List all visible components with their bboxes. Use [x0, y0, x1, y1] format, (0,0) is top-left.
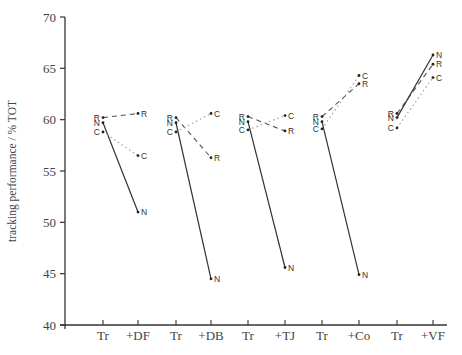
tracking-performance-chart: 40455055606570 Tr+DFTr+DBTr+TJTr+CoTr+VF… [0, 0, 462, 355]
series-line-c [176, 114, 211, 132]
point-label: C [94, 127, 100, 137]
series-line-r [248, 117, 285, 131]
point-label: C [214, 109, 220, 119]
y-tick-label: 65 [43, 61, 56, 76]
x-tick-label: +VF [421, 328, 445, 343]
x-tick-label: Tr [170, 328, 182, 343]
point-label: R [141, 109, 147, 119]
x-tick-label: +DB [198, 328, 224, 343]
point-label: C [388, 123, 394, 133]
series-line-r [176, 118, 211, 158]
series-line-n [176, 123, 211, 279]
y-tick-label: 50 [43, 215, 56, 230]
point-label: N [388, 113, 394, 123]
data-point [321, 120, 324, 123]
data-point [284, 130, 287, 133]
point-label: C [313, 124, 319, 134]
group-co: RRNNCC [313, 71, 368, 280]
data-point [358, 74, 361, 77]
data-point [284, 266, 287, 269]
x-tick-label: Tr [97, 328, 109, 343]
data-point [358, 273, 361, 276]
point-label: N [288, 263, 294, 273]
y-axis-ticks: 40455055606570 [43, 10, 65, 333]
point-label: N [214, 274, 220, 284]
data-point [137, 211, 140, 214]
data-point [247, 115, 250, 118]
group-df: RRNNCC [94, 109, 147, 218]
data-point [321, 128, 324, 131]
series-line-r [397, 64, 433, 113]
point-label: C [141, 151, 147, 161]
data-point [321, 115, 324, 118]
data-point [396, 112, 399, 115]
data-point [247, 120, 250, 123]
data-point [102, 116, 105, 119]
data-point [432, 76, 435, 79]
data-point [432, 54, 435, 57]
y-tick-label: 70 [43, 10, 56, 25]
point-label: C [239, 125, 245, 135]
data-point [102, 131, 105, 134]
point-label: N [362, 270, 368, 280]
series-line-n [248, 122, 285, 268]
data-point [396, 126, 399, 129]
y-tick-label: 45 [43, 266, 56, 281]
group-db: RRNNCC [167, 109, 220, 284]
group-vf: RRNNCC [388, 50, 442, 133]
point-label: C [288, 111, 294, 121]
data-point [247, 129, 250, 132]
y-axis-label: tracking performance / % TOT [6, 100, 19, 242]
data-point [175, 116, 178, 119]
point-label: R [288, 126, 294, 136]
point-label: C [436, 73, 442, 83]
group-tj: RRNNCC [239, 111, 294, 273]
x-tick-label: Tr [316, 328, 328, 343]
series-line-c [322, 76, 359, 129]
data-point [284, 114, 287, 117]
series-line-n [103, 123, 138, 212]
y-tick-label: 55 [43, 164, 56, 179]
data-series: RRNNCCRRNNCCRRNNCCRRNNCCRRNNCC [94, 50, 442, 284]
point-label: N [436, 50, 442, 60]
x-tick-label: +DF [126, 328, 150, 343]
x-tick-label: Tr [242, 328, 254, 343]
y-tick-label: 40 [43, 318, 56, 333]
data-point [175, 131, 178, 134]
data-point [137, 154, 140, 157]
series-line-r [103, 114, 138, 118]
point-label: C [167, 127, 173, 137]
x-axis-ticks: Tr+DFTr+DBTr+TJTr+CoTr+VF [97, 320, 445, 343]
data-point [102, 121, 105, 124]
point-label: N [141, 207, 147, 217]
axes [60, 17, 447, 329]
series-line-n [397, 55, 433, 118]
data-point [210, 112, 213, 115]
data-point [396, 116, 399, 119]
data-point [175, 121, 178, 124]
point-label: R [214, 153, 220, 163]
data-point [210, 277, 213, 280]
data-point [432, 63, 435, 66]
data-point [210, 156, 213, 159]
y-tick-label: 60 [43, 112, 56, 127]
point-label: R [436, 59, 442, 69]
series-line-r [322, 84, 359, 117]
x-tick-label: +TJ [275, 328, 295, 343]
series-line-c [248, 116, 285, 130]
point-label: C [362, 71, 368, 81]
x-tick-label: Tr [391, 328, 403, 343]
x-tick-label: +Co [348, 328, 371, 343]
data-point [137, 112, 140, 115]
series-line-n [322, 122, 359, 275]
data-point [358, 82, 361, 85]
